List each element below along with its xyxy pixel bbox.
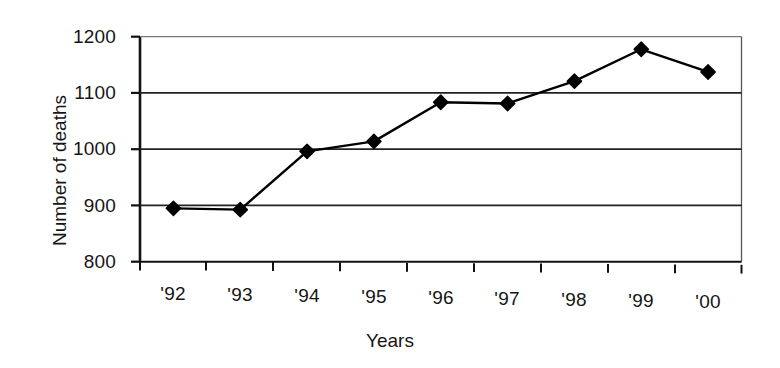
y-tick-label-800: 800 xyxy=(46,252,116,271)
data-point-marker-99 xyxy=(634,42,648,56)
data-point-marker-96 xyxy=(434,95,448,109)
x-tick-label-98: '98 xyxy=(547,290,601,309)
series-line xyxy=(173,49,708,209)
x-tick-label-94: '94 xyxy=(280,286,334,305)
y-axis-title: Number of deaths xyxy=(50,95,69,246)
screenshot-root: 1200 1100 1000 900 800 '92 '93 '94 '95 '… xyxy=(0,0,780,368)
y-axis-ticks xyxy=(131,37,140,262)
data-point-marker-98 xyxy=(567,74,581,88)
x-tick-label-92: '92 xyxy=(146,284,200,303)
y-tick-label-1200: 1200 xyxy=(46,27,116,46)
x-axis-title: Years xyxy=(0,331,780,350)
x-tick-label-99: '99 xyxy=(614,291,668,310)
data-point-marker-95 xyxy=(367,134,381,148)
x-tick-label-96: '96 xyxy=(414,288,468,307)
x-tick-label-95: '95 xyxy=(347,287,401,306)
series-markers xyxy=(166,42,715,217)
data-point-marker-00 xyxy=(701,65,715,79)
x-tick-label-00: '00 xyxy=(681,292,735,311)
x-tick-label-93: '93 xyxy=(213,285,267,304)
x-axis-ticks xyxy=(140,262,742,274)
data-point-marker-92 xyxy=(166,201,180,215)
x-tick-label-97: '97 xyxy=(480,289,534,308)
chart-plot-area xyxy=(0,0,780,368)
line-chart-figure: 1200 1100 1000 900 800 '92 '93 '94 '95 '… xyxy=(0,0,780,368)
data-point-marker-97 xyxy=(500,96,514,110)
